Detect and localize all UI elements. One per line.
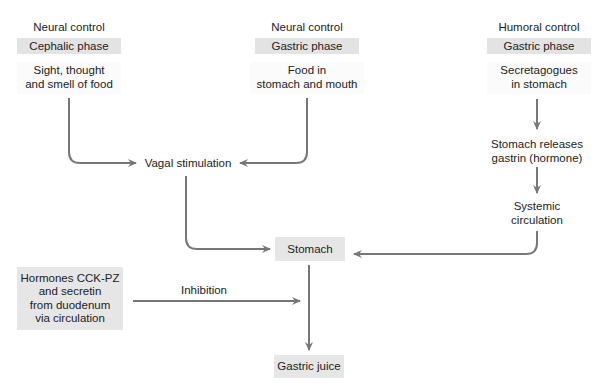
column-1-phase-box: Cephalic phase (17, 38, 121, 54)
column-3-stimulus: Secretagogues in stomach (487, 62, 591, 94)
gastrin-release-step: Stomach releases gastrin (hormone) (482, 138, 592, 165)
step-line: circulation (487, 214, 587, 228)
step-line: gastrin (hormone) (482, 152, 592, 166)
vagal-stimulation-label: Vagal stimulation (138, 157, 238, 170)
inhibition-label: Inhibition (172, 284, 236, 297)
column-1-control-label: Neural control (17, 21, 121, 34)
stimulus-line: Secretagogues (487, 64, 591, 78)
inhibitor-hormones-box: Hormones CCK-PZ and secretin from duoden… (17, 267, 123, 330)
column-2-stimulus: Food in stomach and mouth (250, 62, 364, 94)
step-line: Systemic (487, 200, 587, 214)
stimulus-line: Food in (250, 64, 364, 78)
step-line: Stomach releases (482, 138, 592, 152)
gastric-juice-box: Gastric juice (274, 355, 344, 378)
inhibitor-line: Hormones CCK-PZ (20, 272, 119, 286)
systemic-circulation-step: Systemic circulation (487, 200, 587, 227)
column-2-phase-box: Gastric phase (255, 38, 359, 54)
inhibitor-line: from duodenum (30, 299, 111, 313)
stimulus-line: and smell of food (17, 78, 121, 92)
inhibitor-line: and secretin (39, 285, 102, 299)
stimulus-line: Sight, thought (17, 64, 121, 78)
inhibitor-line: via circulation (35, 312, 105, 326)
stomach-box: Stomach (275, 237, 345, 261)
stimulus-line: in stomach (487, 78, 591, 92)
column-3-control-label: Humoral control (487, 21, 591, 34)
column-2-control-label: Neural control (255, 21, 359, 34)
column-3-phase-box: Gastric phase (487, 38, 591, 54)
stimulus-line: stomach and mouth (250, 78, 364, 92)
column-1-stimulus: Sight, thought and smell of food (17, 62, 121, 94)
